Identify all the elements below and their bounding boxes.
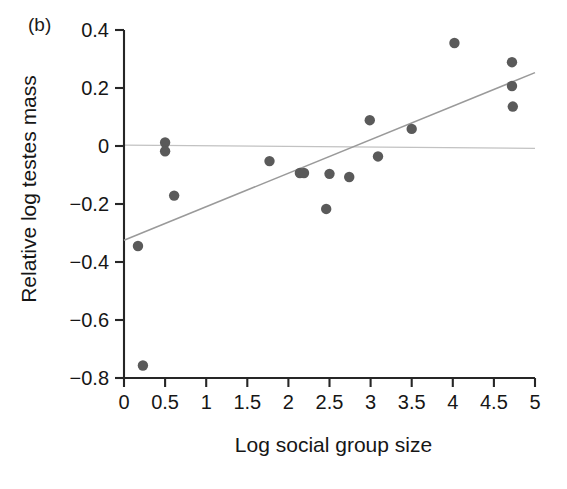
data-point bbox=[324, 169, 334, 179]
x-tick-label: 3.5 bbox=[398, 391, 426, 413]
y-tick-label: −0.8 bbox=[70, 367, 109, 389]
x-tick-label: 3 bbox=[365, 391, 376, 413]
x-tick-label: 4 bbox=[447, 391, 458, 413]
data-point bbox=[160, 146, 170, 156]
x-tick-label: 4.5 bbox=[480, 391, 508, 413]
y-tick-label: −0.4 bbox=[70, 251, 109, 273]
zero-reference-line bbox=[124, 145, 535, 148]
data-point bbox=[299, 168, 309, 178]
x-axis-title: Log social group size bbox=[235, 433, 432, 456]
data-point bbox=[373, 151, 383, 161]
figure-panel: (b) 0.40.20−0.2−0.4−0.6−0.800.511.522.53… bbox=[0, 0, 567, 489]
data-point bbox=[449, 38, 459, 48]
y-axis-title: Relative log testes mass bbox=[17, 75, 40, 303]
y-tick-label: −0.6 bbox=[70, 309, 109, 331]
data-point bbox=[507, 81, 517, 91]
data-point bbox=[138, 360, 148, 370]
x-tick-label: 0.5 bbox=[151, 391, 179, 413]
x-tick-label: 1 bbox=[201, 391, 212, 413]
data-point bbox=[321, 204, 331, 214]
x-tick-label: 5 bbox=[529, 391, 540, 413]
data-point bbox=[365, 115, 375, 125]
y-tick-label: 0.4 bbox=[81, 19, 109, 41]
x-tick-label: 0 bbox=[118, 391, 129, 413]
data-point bbox=[169, 190, 179, 200]
data-point bbox=[133, 241, 143, 251]
x-tick-label: 2.5 bbox=[316, 391, 344, 413]
regression-line bbox=[124, 73, 535, 241]
y-tick-label: 0.2 bbox=[81, 77, 109, 99]
data-point bbox=[344, 172, 354, 182]
scatter-plot: 0.40.20−0.2−0.4−0.6−0.800.511.522.533.54… bbox=[0, 0, 567, 489]
y-tick-label: 0 bbox=[98, 135, 109, 157]
data-point bbox=[407, 124, 417, 134]
data-point bbox=[507, 57, 517, 67]
x-tick-label: 1.5 bbox=[233, 391, 261, 413]
data-point bbox=[508, 101, 518, 111]
y-tick-label: −0.2 bbox=[70, 193, 109, 215]
data-point bbox=[264, 156, 274, 166]
x-tick-label: 2 bbox=[283, 391, 294, 413]
